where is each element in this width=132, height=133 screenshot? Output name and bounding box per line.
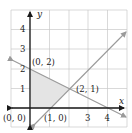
- y-axis-label: y: [36, 9, 43, 19]
- point-label-2-1: (2, 1): [76, 84, 99, 94]
- y-tick-3: 3: [20, 44, 25, 54]
- coordinate-plane: y x 4 3 2 1 3 4 (0, 2) (2, 1) (0, 0) (1,…: [0, 0, 132, 133]
- graph-figure: y x 4 3 2 1 3 4 (0, 2) (2, 1) (0, 0) (1,…: [0, 0, 132, 133]
- x-tick-4: 4: [105, 113, 110, 123]
- x-axis-label: x: [119, 96, 124, 106]
- point-label-0-2: (0, 2): [32, 57, 55, 67]
- point-label-1-0: (1, 0): [44, 113, 67, 123]
- y-tick-1: 1: [20, 84, 25, 94]
- y-tick-4: 4: [20, 24, 25, 34]
- point-label-0-0: (0, 0): [3, 113, 26, 123]
- y-tick-2: 2: [20, 64, 25, 74]
- x-tick-3: 3: [85, 113, 90, 123]
